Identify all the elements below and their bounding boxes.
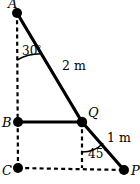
vertex-dot-C — [13, 163, 23, 173]
axis-C-to-P — [18, 168, 124, 170]
vertex-label-B: B — [1, 115, 12, 130]
length-label-AQ: 2 m — [62, 58, 86, 73]
vertex-dot-B — [13, 117, 23, 127]
vertex-dot-P — [119, 165, 129, 175]
degree-symbol-at-A: ° — [37, 44, 41, 53]
angle-label-at-A: 30° — [22, 44, 41, 58]
axis-A-to-C — [17, 13, 18, 168]
vertex-dot-Q — [77, 117, 87, 127]
angle-value-at-Q: 45 — [88, 147, 103, 161]
vertex-label-Q: Q — [88, 105, 99, 120]
degree-symbol-at-Q: ° — [103, 147, 107, 156]
vertex-label-A: A — [7, 0, 17, 11]
vertex-label-P: P — [130, 163, 140, 178]
length-label-QP: 1 m — [107, 130, 131, 145]
vertex-label-C: C — [2, 163, 12, 178]
diagram-canvas: A B C Q P 2 m 1 m 30° 45° — [0, 0, 140, 184]
geometry-figure: A B C Q P 2 m 1 m 30° 45° — [0, 0, 140, 184]
angle-label-at-Q: 45° — [88, 147, 107, 161]
angle-value-at-A: 30 — [22, 44, 37, 58]
